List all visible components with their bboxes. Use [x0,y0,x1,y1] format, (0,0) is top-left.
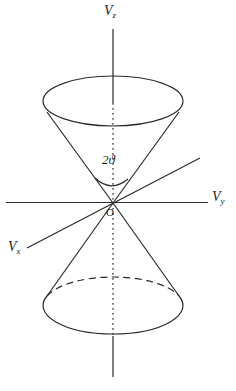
y-axis-label-sub: y [221,196,225,206]
y-axis-label: Vy [212,190,225,204]
lower-cone-left-slant [47,203,113,296]
origin-label: O [106,207,114,218]
double-cone-diagram: Vz Vy Vx 2ϑ O [0,0,236,391]
x-axis-label: Vx [8,240,21,254]
diagram-line-art [0,0,236,391]
apex-angle-label: 2ϑ [102,153,115,166]
lower-cone-right-slant [113,203,179,296]
y-axis-label-main: V [212,189,221,204]
z-axis-label: Vz [104,4,116,18]
x-axis-label-main: V [8,239,17,254]
z-axis-label-main: V [104,3,113,18]
x-axis-label-sub: x [17,246,21,256]
z-axis-label-sub: z [113,10,117,20]
